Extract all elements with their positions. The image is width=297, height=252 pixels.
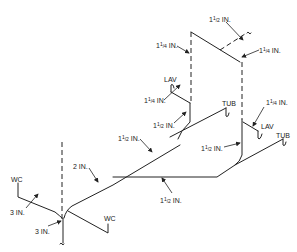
- label-wc-bottom: WC: [104, 215, 116, 222]
- label-vent-top-size: 11/2 IN.: [209, 15, 231, 23]
- main-2in-branch-pipe: [64, 145, 180, 218]
- label-upper-branch-size: 11/2 IN.: [118, 134, 140, 142]
- label-lav-upper-drain-size: 11/2 IN.: [153, 121, 175, 129]
- upper-riser-pipe: [178, 103, 190, 139]
- leader-vent-right: [242, 50, 259, 57]
- label-stack-base-size: 3 IN.: [35, 228, 50, 235]
- leader-vent-top: [226, 22, 243, 40]
- plumbing-isometric-diagram: LAV TUB LAV TUB WC WC 11/2 IN. 11/4 IN. …: [0, 0, 297, 252]
- leader-right-riser: [224, 143, 240, 147]
- tub-right-trap: [283, 139, 286, 146]
- vent-break-symbol: [247, 32, 251, 34]
- leader-upper-branch: [140, 139, 152, 152]
- vent-through-roof-dashed: [220, 34, 245, 50]
- label-lav-right-branch-size: 11/4 IN.: [266, 98, 288, 106]
- label-lower-branch-size: 11/2 IN.: [160, 196, 182, 204]
- label-vent-left-size: 11/4 IN.: [156, 41, 178, 49]
- leader-lower-branch: [162, 178, 172, 193]
- label-lav-upper: LAV: [164, 76, 177, 83]
- label-main-2in-size: 2 IN.: [73, 163, 88, 170]
- lav-right-branch-pipe: [243, 122, 258, 131]
- label-tub-right: TUB: [276, 132, 290, 139]
- leader-stack-base: [48, 221, 61, 226]
- leader-lav-upper-branch: [164, 85, 180, 100]
- wc-bottom-branch-pipe: [68, 211, 108, 233]
- tub-upper-trap: [226, 108, 229, 117]
- label-lav-upper-branch-size: 11/4 IN.: [144, 96, 166, 104]
- right-riser-pipe: [235, 120, 242, 165]
- leader-vent-left: [177, 46, 189, 53]
- label-wc-left-size: 3 IN.: [10, 209, 25, 216]
- label-wc-left: WC: [11, 176, 23, 183]
- lav-upper-branch-pipe: [171, 92, 190, 103]
- lower-branch-pipe: [113, 139, 283, 177]
- label-right-riser-size: 11/2 IN.: [201, 144, 223, 152]
- label-tub-upper: TUB: [222, 100, 236, 107]
- leader-main-2in: [89, 168, 98, 182]
- lav-right-trap: [258, 131, 262, 139]
- label-lav-right: LAV: [261, 123, 274, 130]
- upper-tub-branch-pipe: [170, 108, 226, 137]
- vent-top-pipe: [191, 32, 240, 62]
- leader-lav-upper-drain: [174, 112, 186, 123]
- label-vent-right-size: 11/4 IN.: [259, 46, 281, 54]
